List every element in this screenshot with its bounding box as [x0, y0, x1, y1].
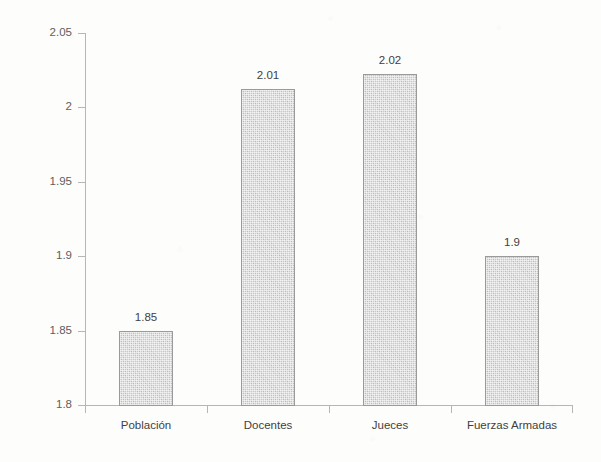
y-tick-mark — [78, 107, 86, 108]
bar-value-fuerzas-armadas: 1.9 — [485, 237, 539, 249]
x-tick-mark — [572, 405, 573, 413]
bar-jueces — [363, 74, 417, 406]
bar-value-poblacion: 1.85 — [119, 312, 173, 324]
y-tick-label: 1.95 — [26, 176, 72, 188]
x-tick-mark — [329, 405, 330, 413]
bar-docentes — [241, 89, 295, 406]
x-tick-mark — [85, 405, 86, 413]
y-tick-label: 1.8 — [26, 399, 72, 411]
x-category-label-fuerzas-armadas: Fuerzas Armadas — [451, 420, 573, 432]
y-tick-mark — [78, 256, 86, 257]
y-tick-label: 2.05 — [26, 27, 72, 39]
y-tick-mark — [78, 331, 86, 332]
y-axis-line — [85, 33, 86, 406]
bar-value-jueces: 2.02 — [363, 55, 417, 67]
x-category-label-poblacion: Población — [85, 420, 207, 432]
x-category-label-jueces: Jueces — [329, 420, 451, 432]
y-tick-mark — [78, 33, 86, 34]
x-category-label-docentes: Docentes — [207, 420, 329, 432]
bar-poblacion — [119, 331, 173, 406]
bar-chart: Porcentaje 2.05 2 1.95 1.9 1.85 1.8 1.85… — [0, 0, 601, 462]
y-tick-label: 1.85 — [26, 325, 72, 337]
bar-fuerzas-armadas — [485, 256, 539, 406]
y-tick-label: 2 — [26, 101, 72, 113]
x-tick-mark — [207, 405, 208, 413]
bar-value-docentes: 2.01 — [241, 70, 295, 82]
y-tick-label: 1.9 — [26, 250, 72, 262]
y-tick-mark — [78, 182, 86, 183]
x-tick-mark — [451, 405, 452, 413]
